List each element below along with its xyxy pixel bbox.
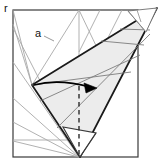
- label-point-a-text: a: [35, 27, 42, 39]
- origami-diagram-svg: a r: [0, 0, 164, 166]
- corner-tick-mark: r: [4, 2, 8, 14]
- origami-diagram-container: a r: [0, 0, 164, 166]
- corner-tick-text: r: [4, 2, 8, 14]
